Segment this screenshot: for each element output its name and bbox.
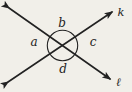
geometry-figure: a b c d k ℓ [0, 0, 132, 92]
ray-k-label: k [118, 5, 125, 19]
angle-b-label: b [58, 16, 66, 30]
angle-d-label: d [59, 62, 67, 76]
angle-c-label: c [90, 35, 97, 49]
ray-l-label: ℓ [116, 75, 121, 89]
angle-a-label: a [30, 35, 37, 49]
paper-background [0, 0, 132, 92]
intersecting-lines-diagram: a b c d k ℓ [0, 0, 132, 92]
